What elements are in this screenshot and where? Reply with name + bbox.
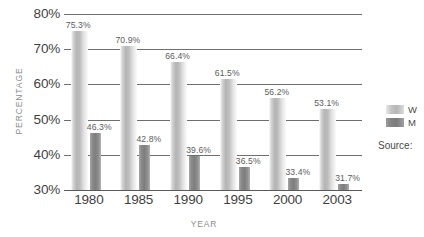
source-note: Source:	[378, 140, 412, 151]
bar-value-label: 39.6%	[186, 145, 211, 155]
bar-women	[269, 98, 286, 190]
bar-value-label: 33.4%	[285, 167, 310, 177]
bar-value-label: 61.5%	[215, 68, 240, 78]
bar-value-label: 36.5%	[236, 156, 261, 166]
legend-item: M	[386, 117, 424, 128]
plot-area: 75.3%46.3%70.9%42.8%66.4%39.6%61.5%36.5%…	[64, 14, 362, 190]
bar-group: 61.5%36.5%	[213, 14, 263, 190]
bar-value-label: 31.7%	[335, 173, 360, 183]
y-axis-tick-label: 80%	[24, 6, 60, 21]
bar-value-label: 53.1%	[314, 98, 339, 108]
bar-women	[319, 109, 336, 190]
bar-men	[288, 178, 299, 190]
x-axis-tick-label: 2003	[307, 192, 367, 207]
bar-men	[90, 133, 101, 190]
bar-men	[139, 145, 150, 190]
bar-men	[338, 184, 349, 190]
bar-group: 53.1%31.7%	[312, 14, 362, 190]
y-axis-tick-label: 50%	[24, 112, 60, 127]
y-axis-tick-label: 70%	[24, 41, 60, 56]
bar-women	[170, 62, 187, 190]
bar-group: 75.3%46.3%	[64, 14, 114, 190]
legend-item: W	[386, 104, 424, 115]
bar-group: 66.4%39.6%	[163, 14, 213, 190]
legend-label: M	[408, 117, 416, 128]
bar-men	[189, 156, 200, 190]
bar-women	[71, 31, 88, 190]
x-axis-line	[64, 190, 362, 191]
legend-swatch	[386, 118, 404, 127]
bar-value-label: 42.8%	[136, 134, 161, 144]
y-axis-tick-labels: 80%70%60%50%40%30%	[18, 14, 60, 190]
bar-men	[239, 167, 250, 190]
bar-value-label: 75.3%	[66, 20, 91, 30]
bar-group: 70.9%42.8%	[114, 14, 164, 190]
legend-label: W	[408, 104, 417, 115]
y-axis-tick-label: 40%	[24, 147, 60, 162]
bar-chart: PERCENTAGE 80%70%60%50%40%30% 75.3%46.3%…	[0, 0, 424, 237]
bar-group: 56.2%33.4%	[263, 14, 313, 190]
bar-value-label: 56.2%	[264, 87, 289, 97]
y-axis-tick-label: 60%	[24, 76, 60, 91]
legend-swatch	[386, 105, 404, 114]
chart-legend: WM	[386, 104, 424, 130]
bar-value-label: 70.9%	[115, 35, 140, 45]
bar-women	[120, 46, 137, 190]
y-axis-tick-label: 30%	[24, 182, 60, 197]
bar-value-label: 46.3%	[87, 122, 112, 132]
x-axis-title: YEAR	[45, 219, 363, 229]
bar-value-label: 66.4%	[165, 51, 190, 61]
bar-women	[220, 79, 237, 190]
